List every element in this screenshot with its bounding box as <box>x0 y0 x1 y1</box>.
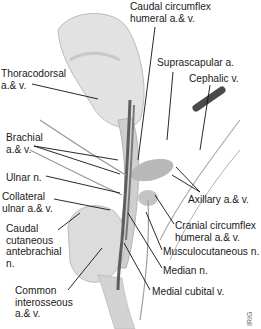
label-collateral-ulnar: Collateral ulnar a.& v. <box>2 191 53 214</box>
label-caudal-circumflex-humeral: Caudal circumflex humeral a.& v. <box>130 1 211 24</box>
label-thoracodorsal: Thoracodorsal a.& v. <box>1 68 66 91</box>
credit-watermark: IRIG <box>246 312 253 326</box>
label-common-interosseous: Common interosseous a.& v. <box>15 285 73 320</box>
anatomy-figure: Caudal circumflex humeral a.& v. Suprasc… <box>0 0 261 329</box>
label-musculocutaneous-nerve: Musculocutaneous n. <box>163 246 259 258</box>
label-medial-cubital-vein: Medial cubital v. <box>152 286 224 298</box>
label-caudal-cutaneous-antebrachial: Caudal cutaneous antebrachial n. <box>6 223 62 269</box>
label-suprascapular-artery: Suprascapular a. <box>157 57 234 69</box>
label-median-nerve: Median n. <box>163 265 208 277</box>
label-cephalic-vein: Cephalic v. <box>189 73 239 85</box>
label-cranial-circumflex-humeral: Cranial circumflex humeral a.& v. <box>175 220 256 243</box>
label-ulnar-nerve: Ulnar n. <box>6 172 42 184</box>
label-brachial: Brachial a.& v. <box>6 132 43 155</box>
label-axillary: Axillary a.& v. <box>188 194 249 206</box>
illustration <box>0 0 261 329</box>
